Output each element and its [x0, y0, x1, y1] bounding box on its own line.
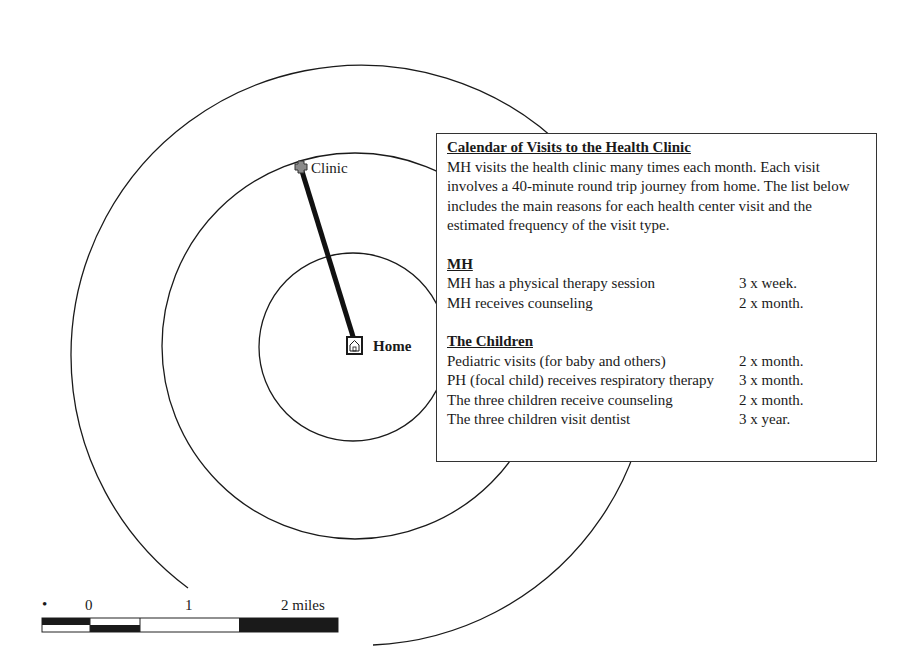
- scale-label-2-miles: 2 miles: [281, 597, 325, 614]
- visit-frequency: 2 x month.: [739, 294, 804, 314]
- visit-reason: The three children visit dentist: [447, 410, 739, 430]
- calendar-title: Calendar of Visits to the Health Clinic: [447, 138, 868, 158]
- scale-label-1: 1: [185, 597, 193, 614]
- home-label: Home: [373, 338, 411, 355]
- visit-row: PH (focal child) receives respiratory th…: [447, 371, 868, 391]
- visit-row: MH has a physical therapy session 3 x we…: [447, 274, 868, 294]
- visit-frequency: 3 x week.: [739, 274, 797, 294]
- route-line: [301, 168, 355, 343]
- section-title-mh: MH: [447, 255, 868, 275]
- visit-row: Pediatric visits (for baby and others) 2…: [447, 352, 868, 372]
- visit-reason: Pediatric visits (for baby and others): [447, 352, 739, 372]
- scale-label-0: 0: [85, 597, 93, 614]
- cross-icon: [295, 161, 307, 173]
- visit-frequency: 2 x month.: [739, 391, 804, 411]
- calendar-intro: MH visits the health clinic many times e…: [447, 158, 868, 236]
- visit-reason: MH receives counseling: [447, 294, 739, 314]
- visit-row: The three children visit dentist 3 x yea…: [447, 410, 868, 430]
- visit-reason: MH has a physical therapy session: [447, 274, 739, 294]
- visit-row: MH receives counseling 2 x month.: [447, 294, 868, 314]
- scale-bar: [42, 618, 338, 632]
- house-icon: [347, 337, 362, 354]
- clinic-label: Clinic: [311, 160, 348, 177]
- scale-dot: •: [42, 596, 47, 613]
- section-title-children: The Children: [447, 332, 868, 352]
- visit-row: The three children receive counseling 2 …: [447, 391, 868, 411]
- visit-calendar-box: Calendar of Visits to the Health Clinic …: [436, 133, 877, 462]
- visit-reason: PH (focal child) receives respiratory th…: [447, 371, 739, 391]
- visit-frequency: 2 x month.: [739, 352, 804, 372]
- visit-frequency: 3 x month.: [739, 371, 804, 391]
- visit-reason: The three children receive counseling: [447, 391, 739, 411]
- visit-frequency: 3 x year.: [739, 410, 790, 430]
